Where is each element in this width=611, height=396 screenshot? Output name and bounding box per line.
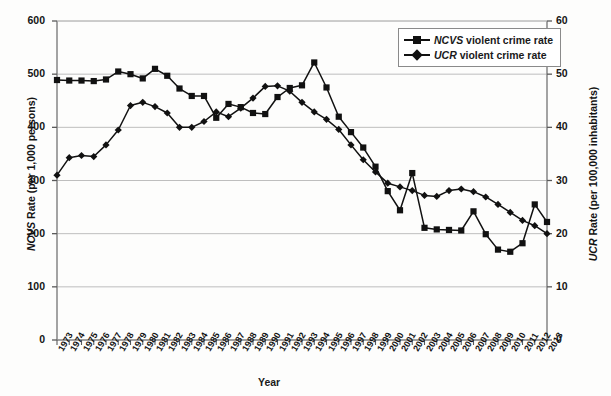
legend-item-label: UCR violent crime rate — [434, 49, 547, 61]
y-axis-right-title-rest: Rate (per 100,000 inhabitants) — [587, 87, 599, 239]
legend-item-ncvs[interactable]: NCVS violent crime rate — [404, 32, 553, 47]
y-axis-left-tick-100: 100 — [5, 280, 45, 292]
y-axis-left-tick-600: 600 — [5, 14, 45, 26]
diamond-marker — [404, 49, 430, 60]
y-axis-left-tick-300: 300 — [5, 174, 45, 186]
legend-item-label: NCVS violent crime rate — [434, 34, 553, 46]
y-axis-left-tick-200: 200 — [5, 227, 45, 239]
y-axis-left-tick-0: 0 — [5, 333, 45, 345]
chart-legend: NCVS violent crime rateUCR violent crime… — [398, 28, 561, 67]
y-axis-right-tick-20: 20 — [556, 227, 596, 239]
y-axis-right-tick-10: 10 — [556, 280, 596, 292]
x-axis-title: Year — [258, 376, 280, 388]
y-axis-right-tick-50: 50 — [556, 67, 596, 79]
y-axis-left-tick-500: 500 — [5, 67, 45, 79]
legend-item-ucr[interactable]: UCR violent crime rate — [404, 47, 553, 62]
y-axis-right-tick-60: 60 — [556, 14, 596, 26]
square-marker — [404, 34, 430, 45]
y-axis-right-tick-30: 30 — [556, 174, 596, 186]
y-axis-right-title-italic: UCR — [587, 238, 599, 261]
y-axis-right-tick-40: 40 — [556, 120, 596, 132]
y-axis-left-title-rest: Rate (per 1,000 persons) — [25, 97, 37, 222]
y-axis-left-tick-400: 400 — [5, 120, 45, 132]
violent-crime-rate-chart: NCVS Rate (per 1,000 persons) UCR Rate (… — [0, 0, 611, 396]
